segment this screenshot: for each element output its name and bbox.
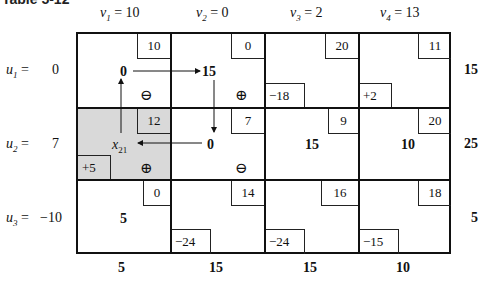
stepping-stone-loop-arrows: [0, 0, 482, 282]
demand-col-4: 10: [396, 260, 410, 276]
demand-col-2: 15: [209, 260, 223, 276]
supply-row-1: 15: [464, 62, 478, 78]
supply-row-3: 5: [471, 210, 478, 226]
demand-col-1: 5: [118, 260, 125, 276]
demand-col-3: 15: [303, 260, 317, 276]
supply-row-2: 25: [464, 136, 478, 152]
